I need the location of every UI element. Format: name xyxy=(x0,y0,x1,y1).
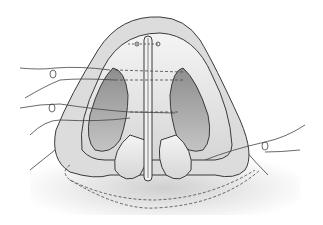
nasal-suture-illustration xyxy=(0,0,323,225)
